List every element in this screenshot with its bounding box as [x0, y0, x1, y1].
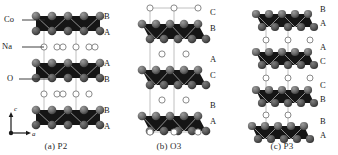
- stack-label: A: [104, 28, 110, 37]
- sodium-layer-2: [41, 78, 92, 110]
- stack-label: B: [104, 106, 110, 115]
- axis-indicator: [9, 112, 31, 135]
- sodium-layer-2: [263, 75, 313, 81]
- stack-label: A: [210, 117, 216, 126]
- stack-label: B: [210, 101, 216, 110]
- caption-p2: (a) P2: [0, 141, 112, 151]
- slab-4: [248, 122, 314, 143]
- sodium-layer-1: [263, 37, 313, 43]
- label-na: Na: [2, 41, 12, 51]
- slab-3: [32, 106, 105, 130]
- stack-label: B: [104, 12, 110, 21]
- axis-label-a: a: [32, 130, 36, 138]
- caption-o3: (b) O3: [112, 141, 226, 151]
- figure-crystal-structures: Co Na O c a B A A B B A (a) P2: [0, 0, 338, 155]
- stack-label: A: [320, 131, 326, 140]
- stack-label: B: [320, 5, 326, 14]
- unit-cell-lines: [266, 16, 288, 128]
- stack-label: A: [104, 122, 110, 131]
- panel-o3-graphic: [112, 0, 226, 155]
- panel-p2: Co Na O c a B A A B B A (a) P2: [0, 0, 112, 155]
- stack-label: C: [320, 57, 326, 66]
- stack-label: B: [320, 117, 326, 126]
- slab-3: [252, 86, 318, 107]
- stack-label: B: [210, 24, 216, 33]
- stack-label: C: [320, 81, 326, 90]
- sodium-layer-3: [263, 112, 291, 118]
- stack-label: A: [320, 43, 326, 52]
- slab-1: [252, 10, 318, 31]
- sodium-layer-1: [41, 31, 98, 63]
- slab-2: [252, 48, 318, 69]
- slab-2: [138, 66, 211, 90]
- caption-p3: (c) P3: [226, 141, 338, 151]
- stack-label: B: [104, 75, 110, 84]
- label-co: Co: [4, 14, 14, 24]
- stack-label: C: [210, 71, 216, 80]
- stack-label: A: [210, 55, 216, 64]
- axis-label-c: c: [14, 105, 17, 113]
- slab-1: [138, 20, 211, 44]
- panel-p3: B A A C C B B A (c) P3: [226, 0, 338, 155]
- label-o: O: [7, 73, 13, 83]
- stack-label: A: [104, 59, 110, 68]
- panel-p2-graphic: [0, 0, 112, 155]
- slab-1: [32, 12, 105, 36]
- stack-label: A: [320, 19, 326, 28]
- stack-label: C: [210, 8, 216, 17]
- panel-o3: C B A C B A (b) O3: [112, 0, 226, 155]
- stack-label: B: [320, 95, 326, 104]
